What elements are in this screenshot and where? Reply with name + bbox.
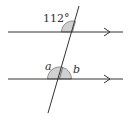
diagram: 112° a b <box>0 0 135 116</box>
angle-112-label: 112° <box>43 13 70 24</box>
angle-a-label: a <box>45 61 52 72</box>
angle-b-label: b <box>73 64 80 75</box>
